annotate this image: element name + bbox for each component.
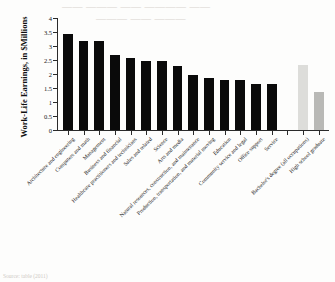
y-tick-label: 0.5 (44, 113, 52, 120)
y-tick-mark (53, 102, 57, 103)
x-tick-mark (193, 131, 194, 135)
x-tick-mark (99, 131, 100, 135)
x-tick-mark (178, 131, 179, 135)
bar (126, 58, 136, 130)
x-tick-mark (146, 131, 147, 135)
x-category-label-text: High school graduate (288, 136, 326, 174)
y-tick-label: 4 (49, 15, 52, 22)
x-category-label-text: Bachelor's degree (all occupations) (250, 136, 310, 196)
figure: —— ——— —— ———— —— ——— —— ——— Work-Life E… (0, 0, 335, 282)
x-tick-mark (209, 131, 210, 135)
bar (314, 92, 324, 130)
x-category-label-text: Natural resources, construction, and mai… (118, 136, 200, 218)
y-tick-label: 2 (49, 71, 52, 78)
bar (94, 41, 104, 130)
x-tick-mark (303, 131, 304, 135)
x-category-label-text: Sales and related (122, 136, 153, 167)
x-category-label-text: Science (153, 136, 170, 153)
y-tick-mark (53, 18, 57, 19)
x-tick-mark (272, 131, 273, 135)
bar (63, 34, 73, 130)
bar (79, 41, 89, 130)
x-tick-mark (256, 131, 257, 135)
bar (110, 55, 120, 130)
y-tick-mark (53, 46, 57, 47)
x-category-label-text: Arts and media (156, 136, 184, 164)
bar (298, 65, 308, 130)
source-note: Source: table (2011) (3, 273, 48, 279)
x-tick-mark (287, 131, 288, 135)
y-tick-label: 2.5 (44, 57, 52, 64)
y-tick-label: 3 (49, 43, 52, 50)
bar (267, 84, 277, 130)
x-tick-mark (240, 131, 241, 135)
x-tick-mark (115, 131, 116, 135)
y-tick-label: 1 (49, 99, 52, 106)
bar (235, 80, 245, 130)
bar (173, 66, 183, 130)
x-category-label-text: Production, transportation, and material… (136, 136, 216, 216)
bar (157, 61, 167, 130)
plot-area: 00.511.522.533.54 (57, 18, 329, 131)
y-tick-mark (53, 116, 57, 117)
bar (141, 61, 151, 130)
x-tick-mark (84, 131, 85, 135)
bar (188, 75, 198, 130)
x-tick-mark (131, 131, 132, 135)
x-category-label-text: Community service and legal (197, 136, 248, 187)
bar (204, 78, 214, 130)
y-tick-mark (53, 88, 57, 89)
x-tick-mark (162, 131, 163, 135)
x-tick-mark (68, 131, 69, 135)
x-tick-mark (319, 131, 320, 135)
x-category-label-text: Education (212, 136, 232, 156)
x-category-label-text: Management (82, 136, 107, 161)
y-tick-label: 1.5 (44, 85, 52, 92)
y-tick-label: 0 (49, 127, 52, 134)
y-tick-mark (53, 74, 57, 75)
bar (220, 80, 230, 130)
bar (251, 84, 261, 130)
x-category-label-text: Healthcare practitioners and technicians (70, 136, 138, 204)
y-tick-mark (53, 32, 57, 33)
x-tick-mark (225, 131, 226, 135)
x-category-label-text: Office support (236, 136, 263, 163)
x-category-label-text: Business and financial (82, 136, 122, 176)
x-category-label-text: Service (263, 136, 279, 152)
x-category-label-text: Architecture and engineering (25, 136, 75, 186)
y-tick-label: 3.5 (44, 29, 52, 36)
x-category-label-text: Computers and math (54, 136, 91, 173)
y-axis-title: Work-Life Earnings, in $Millions (19, 9, 29, 145)
y-tick-mark (53, 60, 57, 61)
y-axis-line (57, 18, 58, 131)
bleed-through-text-line1: —— ——— —— ———— —— (62, 1, 211, 12)
y-tick-mark (53, 130, 57, 131)
